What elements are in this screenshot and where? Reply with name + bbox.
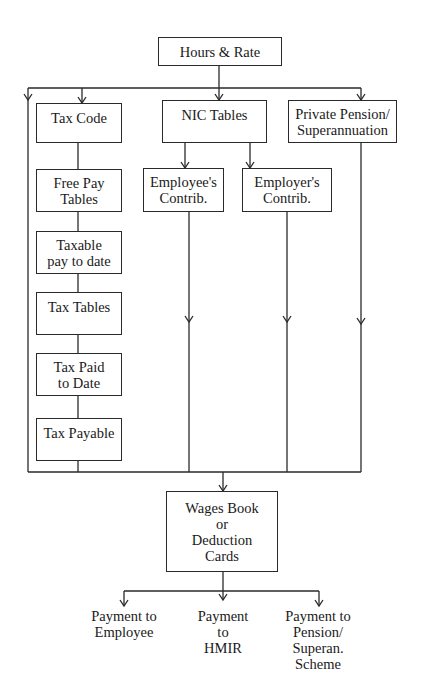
wages-line-1: Wages Book — [185, 500, 258, 516]
output-3-line-4: Scheme — [282, 656, 354, 672]
pension-line-1: Private Pension/ — [295, 106, 390, 122]
wages-line-2: or — [216, 516, 228, 532]
payment-to-employee: Payment to Employee — [89, 608, 159, 640]
tax-paid-line-2: to Date — [58, 375, 100, 391]
wages-line-3: Deduction — [192, 532, 252, 548]
tax-tables-box: Tax Tables — [36, 292, 122, 335]
tax-paid-box: Tax Paid to Date — [36, 353, 122, 396]
employee-contrib-line-2: Contrib. — [160, 190, 208, 206]
private-pension-box: Private Pension/ Superannuation — [288, 100, 397, 143]
hours-rate-box: Hours & Rate — [158, 37, 282, 66]
payment-to-pension-scheme: Payment to Pension/ Superan. Scheme — [282, 608, 354, 672]
output-2-line-2: to — [193, 624, 253, 640]
taxable-pay-box: Taxable pay to date — [36, 231, 122, 274]
payment-to-hmir: Payment to HMIR — [193, 608, 253, 656]
nic-tables-label: NIC Tables — [182, 107, 248, 123]
employee-contrib-line-1: Employee's — [150, 174, 217, 190]
hours-rate-label: Hours & Rate — [180, 44, 261, 60]
taxable-line-1: Taxable — [56, 237, 102, 253]
wages-book-box: Wages Book or Deduction Cards — [166, 491, 278, 572]
employer-contrib-box: Employer's Contrib. — [242, 168, 332, 212]
nic-tables-box: NIC Tables — [162, 100, 267, 143]
free-pay-line-2: Tables — [60, 191, 98, 207]
tax-code-box: Tax Code — [36, 103, 122, 143]
employer-contrib-line-2: Contrib. — [263, 190, 311, 206]
output-1-line-2: Employee — [89, 624, 159, 640]
free-pay-tables-box: Free Pay Tables — [36, 169, 122, 212]
output-3-line-3: Superan. — [282, 640, 354, 656]
tax-tables-label: Tax Tables — [48, 299, 111, 315]
output-2-line-1: Payment — [193, 608, 253, 624]
free-pay-line-1: Free Pay — [53, 175, 104, 191]
tax-code-label: Tax Code — [51, 110, 107, 126]
output-3-line-2: Pension/ — [282, 624, 354, 640]
output-2-line-3: HMIR — [193, 640, 253, 656]
employer-contrib-line-1: Employer's — [254, 174, 319, 190]
tax-payable-label: Tax Payable — [43, 425, 114, 441]
wages-line-4: Cards — [205, 548, 239, 564]
tax-paid-line-1: Tax Paid — [54, 359, 105, 375]
taxable-line-2: pay to date — [47, 253, 111, 269]
tax-payable-box: Tax Payable — [36, 418, 122, 461]
output-3-line-1: Payment to — [282, 608, 354, 624]
output-1-line-1: Payment to — [89, 608, 159, 624]
pension-line-2: Superannuation — [297, 122, 388, 138]
employee-contrib-box: Employee's Contrib. — [143, 168, 224, 212]
